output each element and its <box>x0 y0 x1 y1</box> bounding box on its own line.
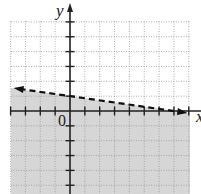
x-axis-label: x <box>195 107 201 126</box>
origin-label: 0 <box>58 112 66 129</box>
inequality-graph: yx0 <box>0 0 201 194</box>
y-axis-arrow-icon <box>67 3 73 12</box>
y-axis-label: y <box>54 1 64 20</box>
shaded-region <box>11 88 190 194</box>
